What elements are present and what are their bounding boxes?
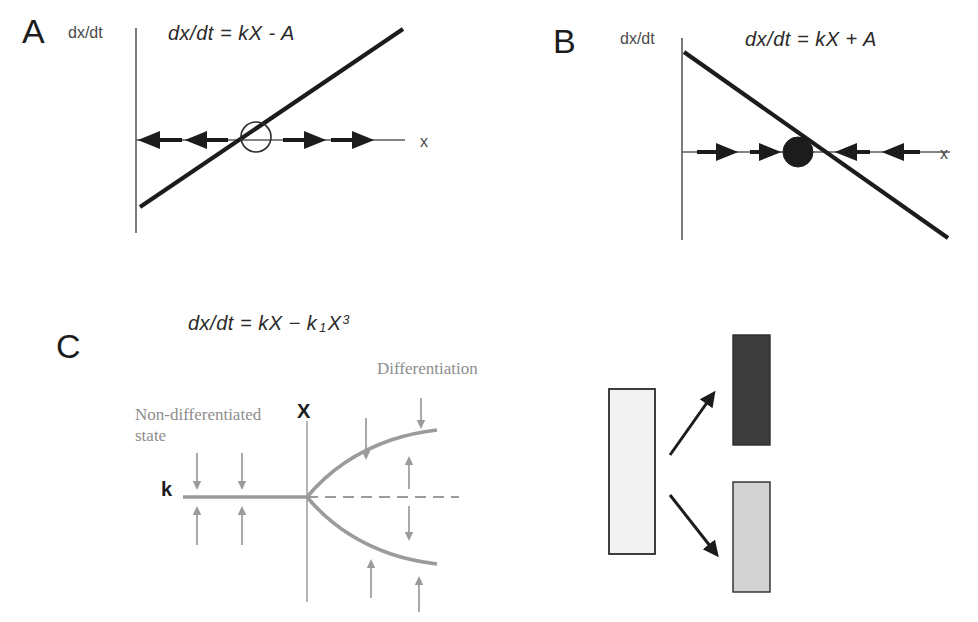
differentiation-arrow-lower bbox=[670, 495, 714, 551]
dark-differentiated-cell-rect bbox=[733, 335, 770, 445]
figure-root: A dx/dt dx/dt = kX - A x B d bbox=[0, 0, 978, 622]
light-differentiated-cell-rect bbox=[733, 482, 770, 592]
undifferentiated-cell-rect bbox=[609, 389, 655, 554]
cell-differentiation-diagram bbox=[0, 0, 978, 622]
differentiation-arrow-upper bbox=[670, 397, 711, 455]
